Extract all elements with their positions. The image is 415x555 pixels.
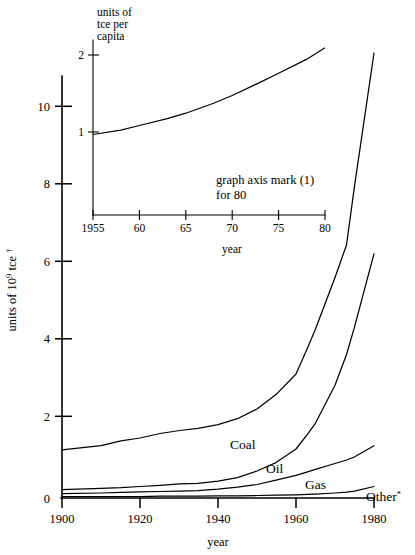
inset-annotation-line1: graph axis mark (1) [216, 173, 314, 187]
inset-y-axis-title-line1: units of [97, 6, 132, 18]
inset-y-tick-label-1: 1 [78, 126, 84, 138]
x-tick-label-1940: 1940 [206, 512, 231, 526]
inset-x-tick-label-70: 70 [226, 222, 238, 234]
main-y-ticks [55, 106, 72, 416]
inset-x-tick-label-60: 60 [134, 222, 146, 234]
inset-y-tick-label-2: 2 [78, 49, 84, 61]
energy-consumption-figure: 10 8 6 4 2 0 1900 1920 1940 1960 1980 ye… [0, 0, 415, 555]
x-tick-label-1960: 1960 [284, 512, 309, 526]
series-path-oil [62, 254, 374, 490]
series-label-oil: Oil [266, 461, 284, 476]
y-tick-label-8: 8 [44, 177, 50, 191]
y-tick-label-2: 2 [44, 410, 50, 424]
main-x-ticks [62, 498, 374, 508]
series-label-gas: Gas [305, 477, 326, 492]
series-label-coal: Coal [230, 437, 256, 452]
series-path-coal [62, 53, 374, 450]
inset-series-path [93, 48, 325, 135]
inset-annotation: graph axis mark (1) for 80 [216, 173, 314, 202]
main-y-axis-title: units of 109 tce † [4, 249, 19, 332]
x-tick-label-1900: 1900 [50, 512, 75, 526]
y-axis-title-dagger: † [4, 249, 14, 253]
series-label-other-text: Other [366, 489, 397, 504]
inset-annotation-line2: for 80 [216, 188, 246, 202]
svg-text:units of 109 tce †: units of 109 tce † [4, 249, 19, 332]
x-tick-label-1920: 1920 [128, 512, 153, 526]
y-tick-label-6: 6 [44, 255, 50, 269]
y-tick-label-4: 4 [44, 332, 51, 346]
main-chart: 10 8 6 4 2 0 1900 1920 1940 1960 1980 ye… [4, 53, 401, 549]
inset-y-axis-title: units of tce per capita [97, 6, 132, 43]
y-axis-title-base: units of 10 [5, 278, 19, 331]
y-tick-label-10: 10 [38, 100, 51, 114]
y-tick-label-0: 0 [44, 492, 50, 506]
series-label-other-asterisk: * [397, 489, 401, 499]
inset-x-tick-label-65: 65 [180, 222, 192, 234]
series-path-gas [62, 446, 374, 494]
main-x-axis-title: year [207, 535, 229, 549]
inset-x-tick-label-1955: 1955 [82, 222, 105, 234]
chart-canvas: 10 8 6 4 2 0 1900 1920 1940 1960 1980 ye… [0, 0, 415, 555]
inset-x-tick-label-75: 75 [273, 222, 285, 234]
x-tick-label-1980: 1980 [362, 512, 387, 526]
y-axis-title-tail: tce [5, 253, 19, 274]
inset-x-tick-label-80: 80 [319, 222, 331, 234]
inset-x-axis-title: year [222, 243, 242, 256]
series-label-other: Other* [366, 489, 401, 504]
inset-chart: 2 1 1955 60 65 70 75 80 year units of [78, 6, 331, 256]
inset-y-axis-title-line3: capita [97, 30, 124, 43]
